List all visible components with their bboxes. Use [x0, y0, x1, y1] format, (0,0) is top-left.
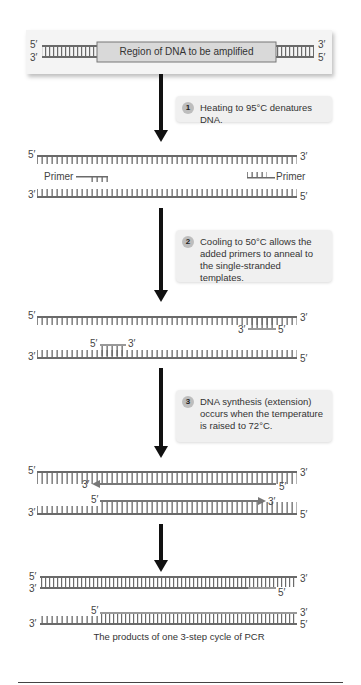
arrow-products — [159, 524, 163, 564]
step1-badge: 1 — [182, 102, 194, 114]
panel2-top-right-label: 3′ — [300, 152, 307, 162]
products-caption: The products of one 3-step cycle of PCR — [26, 631, 332, 642]
region-label: Region of DNA to be amplified — [97, 47, 276, 57]
step2-box: 2 Cooling to 50°C allows the added prime… — [176, 230, 332, 282]
panel4-new-top-left-label: 3′ — [82, 480, 89, 490]
panel4-bottom-left-label: 3′ — [28, 508, 35, 518]
panel4-new-top-right-label: 5′ — [279, 482, 286, 492]
panel3-primer-bottom-left-label: 5′ — [90, 339, 97, 349]
panel1-top-left-label: 5′ — [30, 40, 37, 50]
panel3-top-left-label: 5′ — [28, 311, 35, 321]
panel5-dna — [40, 576, 297, 625]
panel2-bottom-right-label: 5′ — [300, 192, 307, 202]
panel1-top-right-label: 3′ — [318, 40, 325, 50]
panel5-a-top-right-label: 3′ — [300, 574, 307, 584]
arrow-step1 — [159, 74, 163, 132]
panel4-top-left-label: 5′ — [28, 466, 35, 476]
step3-text: DNA synthesis (extension) occurs when th… — [200, 396, 323, 431]
step1-box: 1 Heating to 95°C denatures DNA. — [176, 96, 332, 122]
panel5-a-bottom-left-label: 3′ — [29, 584, 36, 594]
arrow-head-step1 — [154, 130, 168, 142]
panel4-new-bottom-left-label: 5′ — [91, 495, 98, 505]
panel3-primer-bottom-right-label: 3′ — [128, 339, 135, 349]
panel3-bottom-left-label: 3′ — [28, 352, 35, 362]
step3-badge: 3 — [182, 396, 194, 408]
panel4-top-right-label: 3′ — [300, 468, 307, 478]
footer-divider — [18, 682, 343, 683]
arrow-step2 — [159, 208, 163, 292]
arrow-head-products — [154, 560, 168, 572]
panel4-dna — [37, 471, 297, 515]
panel4-new-bottom-right-label: 3′ — [268, 497, 275, 507]
panel5-b-bottom-left-label: 3′ — [29, 619, 36, 629]
arrow-head-step3 — [154, 446, 168, 458]
primer-right-label: Primer — [276, 172, 305, 182]
step2-text: Cooling to 50°C allows the added primers… — [200, 236, 313, 283]
panel2-top-left-label: 5′ — [28, 150, 35, 160]
panel2-bottom-left-label: 3′ — [28, 190, 35, 200]
panel5-b-bottom-right-label: 5′ — [300, 620, 307, 630]
panel4-bottom-right-label: 5′ — [300, 510, 307, 520]
panel5-a-bottom-right-label: 5′ — [278, 588, 285, 598]
panel5-a-top-left-label: 5′ — [29, 572, 36, 582]
panel3-dna — [37, 316, 297, 359]
panel3-top-right-label: 3′ — [300, 313, 307, 323]
panel1-bottom-left-label: 3′ — [30, 53, 37, 63]
panel5-b-top-left-label: 5′ — [91, 606, 98, 616]
panel3-primer-top-right-label: 5′ — [278, 325, 285, 335]
step1-text: Heating to 95°C denatures DNA. — [200, 102, 312, 125]
arrow-head-step2 — [154, 290, 168, 302]
panel5-b-top-right-label: 3′ — [300, 608, 307, 618]
primer-left-label: Primer — [44, 172, 73, 182]
panel3-bottom-right-label: 5′ — [300, 354, 307, 364]
panel2-dna — [37, 155, 297, 198]
step3-box: 3 DNA synthesis (extension) occurs when … — [176, 390, 332, 442]
panel3-primer-top-left-label: 3′ — [238, 325, 245, 335]
panel1-bottom-right-label: 5′ — [318, 53, 325, 63]
step2-badge: 2 — [182, 236, 194, 248]
arrow-step3 — [159, 368, 163, 448]
